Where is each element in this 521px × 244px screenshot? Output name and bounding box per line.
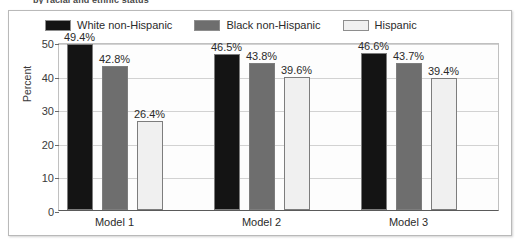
bar: 49.4% bbox=[67, 44, 93, 210]
bar: 46.6% bbox=[361, 53, 387, 210]
bar: 39.6% bbox=[284, 77, 310, 210]
legend-item-1: Black non-Hispanic bbox=[194, 19, 320, 31]
figure-frame: White non-HispanicBlack non-HispanicHisp… bbox=[8, 10, 512, 236]
y-tick-mark bbox=[55, 78, 59, 79]
y-tick-label: 20 bbox=[42, 139, 54, 151]
y-tick-label: 30 bbox=[42, 105, 54, 117]
y-tick-label: 10 bbox=[42, 172, 54, 184]
bar: 43.8% bbox=[249, 63, 275, 210]
bar-value-label: 39.4% bbox=[428, 65, 459, 77]
y-tick-label: 0 bbox=[48, 206, 54, 218]
x-tick-label: Model 2 bbox=[242, 216, 281, 228]
bar: 39.4% bbox=[431, 78, 457, 210]
bar: 43.7% bbox=[396, 63, 422, 210]
y-tick-mark bbox=[55, 178, 59, 179]
bar-value-label: 49.4% bbox=[64, 31, 95, 43]
legend-item-0: White non-Hispanic bbox=[45, 19, 172, 31]
y-tick-mark bbox=[55, 212, 59, 213]
y-axis-label: Percent bbox=[21, 66, 33, 102]
legend-swatch-icon bbox=[194, 20, 220, 31]
bar: 42.8% bbox=[102, 66, 128, 210]
legend-swatch-icon bbox=[343, 20, 369, 31]
bar-value-label: 43.8% bbox=[246, 50, 277, 62]
chart-legend: White non-HispanicBlack non-HispanicHisp… bbox=[45, 19, 417, 31]
bar-value-label: 46.6% bbox=[358, 40, 389, 52]
bar: 46.5% bbox=[214, 54, 240, 210]
x-tick-label: Model 1 bbox=[95, 216, 134, 228]
y-tick-mark bbox=[55, 145, 59, 146]
y-tick-label: 40 bbox=[42, 72, 54, 84]
y-tick-label: 50 bbox=[42, 38, 54, 50]
chart-plot-area: Percent0102030405049.4%42.8%26.4%Model 1… bbox=[58, 43, 499, 211]
bar-value-label: 46.5% bbox=[211, 41, 242, 53]
legend-label: Hispanic bbox=[375, 19, 417, 31]
legend-item-2: Hispanic bbox=[343, 19, 417, 31]
y-tick-mark bbox=[55, 111, 59, 112]
legend-label: Black non-Hispanic bbox=[226, 19, 320, 31]
legend-swatch-icon bbox=[45, 20, 71, 31]
bar: 26.4% bbox=[137, 121, 163, 210]
x-tick-label: Model 3 bbox=[389, 216, 428, 228]
bar-value-label: 39.6% bbox=[281, 64, 312, 76]
bar-value-label: 26.4% bbox=[134, 108, 165, 120]
bar-value-label: 42.8% bbox=[99, 53, 130, 65]
legend-label: White non-Hispanic bbox=[77, 19, 172, 31]
figure-caption-sliver: by racial and ethnic status bbox=[33, 0, 243, 4]
gridline bbox=[59, 44, 498, 45]
y-tick-mark bbox=[55, 44, 59, 45]
bar-value-label: 43.7% bbox=[393, 50, 424, 62]
